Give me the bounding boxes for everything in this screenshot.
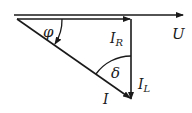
- label-delta: δ: [111, 64, 120, 82]
- phi-angle-arc: [55, 19, 62, 44]
- phasor-diagram: U IR IL I φ δ: [0, 0, 192, 113]
- label-i-total: I: [102, 91, 109, 107]
- label-i-r: IR: [109, 30, 124, 48]
- label-u: U: [172, 25, 186, 43]
- label-phi: φ: [43, 23, 54, 41]
- label-i-l: IL: [137, 76, 151, 94]
